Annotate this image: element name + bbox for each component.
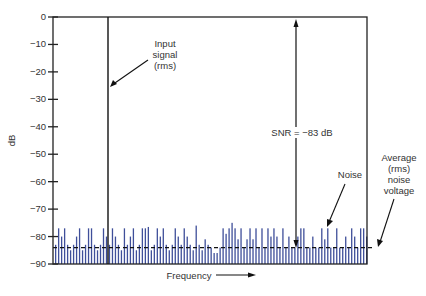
- plot-frame: [53, 17, 367, 264]
- noise-bar: [202, 250, 203, 264]
- noise-bar: [351, 228, 352, 264]
- noise-bar: [64, 228, 65, 264]
- arrowhead-icon: [377, 239, 383, 247]
- noise-bar: [121, 250, 122, 264]
- snr-chart: [0, 0, 426, 296]
- noise-label: Noise: [330, 169, 370, 180]
- noise-bar: [100, 245, 101, 264]
- noise-bar: [187, 237, 188, 264]
- noise-bar: [234, 228, 235, 264]
- noise-bars: [55, 223, 367, 264]
- noise-bar: [175, 228, 176, 264]
- noise-bar: [88, 228, 89, 264]
- noise-bar: [321, 228, 322, 264]
- noise-bar: [184, 228, 185, 264]
- noise-bar: [246, 239, 247, 264]
- noise-bar: [339, 248, 340, 264]
- average-noise-label: Average (rms) noise voltage: [372, 152, 426, 196]
- y-tick-label: −70: [14, 203, 46, 214]
- input-signal-label-line: (rms): [145, 60, 185, 71]
- noise-bar: [312, 237, 313, 264]
- noise-bar: [61, 237, 62, 264]
- arrowhead-icon: [327, 219, 333, 227]
- noise-bar: [130, 237, 131, 264]
- noise-bar: [199, 245, 200, 264]
- input-signal-label-line: signal: [145, 49, 185, 60]
- noise-bar: [97, 250, 98, 264]
- noise-bar: [279, 248, 280, 264]
- noise-bar: [243, 248, 244, 264]
- average-label-line: noise: [372, 174, 426, 185]
- noise-bar: [300, 228, 301, 264]
- noise-bar: [112, 228, 113, 264]
- y-tick-label: −80: [14, 231, 46, 242]
- noise-bar: [303, 228, 304, 264]
- noise-bar: [264, 248, 265, 264]
- noise-bar: [213, 253, 214, 264]
- noise-arrow: [329, 184, 345, 222]
- noise-bar: [160, 237, 161, 264]
- noise-bar: [178, 237, 179, 264]
- noise-bar: [85, 245, 86, 264]
- noise-bar: [333, 248, 334, 264]
- y-tick-label: −60: [14, 176, 46, 187]
- noise-bar: [225, 234, 226, 264]
- average-label-line: (rms): [372, 163, 426, 174]
- noise-bar: [205, 239, 206, 264]
- noise-bar: [261, 228, 262, 264]
- noise-bar: [151, 250, 152, 264]
- y-tick-label: −10: [14, 38, 46, 49]
- snr-label: SNR = −83 dB: [262, 127, 342, 138]
- average-label-line: Average: [372, 152, 426, 163]
- noise-bar: [106, 237, 107, 264]
- input-signal-label-line: Input: [145, 38, 185, 49]
- noise-bar: [294, 248, 295, 264]
- noise-bar: [228, 228, 229, 264]
- noise-bar: [76, 237, 77, 264]
- noise-bar: [270, 237, 271, 264]
- y-tick-label: −90: [14, 258, 46, 269]
- y-tick-label: 0: [14, 11, 46, 22]
- noise-bar: [91, 228, 92, 264]
- noise-bar: [249, 228, 250, 264]
- average-arrow: [380, 199, 394, 242]
- noise-bar: [237, 239, 238, 264]
- noise-bar: [258, 248, 259, 264]
- noise-bar: [285, 248, 286, 264]
- noise-bar: [282, 228, 283, 264]
- noise-bar: [315, 248, 316, 264]
- noise-bar: [222, 228, 223, 264]
- input-signal-label: Input signal (rms): [145, 38, 185, 71]
- noise-bar: [354, 237, 355, 264]
- noise-bar: [336, 228, 337, 264]
- noise-bar: [157, 228, 158, 264]
- noise-bar: [324, 239, 325, 264]
- noise-bar: [211, 248, 212, 264]
- noise-bar: [345, 237, 346, 264]
- noise-bar: [288, 237, 289, 264]
- y-axis-label: dB: [6, 131, 17, 151]
- y-tick-label: −50: [14, 148, 46, 159]
- noise-bar: [124, 228, 125, 264]
- average-label-line: voltage: [372, 185, 426, 196]
- noise-bar: [169, 250, 170, 264]
- noise-bar: [240, 228, 241, 264]
- noise-bar: [145, 228, 146, 264]
- noise-bar: [70, 250, 71, 264]
- noise-bar: [82, 250, 83, 264]
- noise-bar: [163, 228, 164, 264]
- noise-bar: [360, 228, 361, 264]
- noise-bar: [196, 226, 197, 264]
- noise-bar: [133, 228, 134, 264]
- noise-bar: [79, 228, 80, 264]
- noise-bar: [291, 248, 292, 264]
- y-tick-label: −40: [14, 121, 46, 132]
- noise-bar: [136, 250, 137, 264]
- x-axis-label: Frequency: [164, 270, 214, 281]
- noise-bar: [252, 239, 253, 264]
- noise-bar: [363, 228, 364, 264]
- noise-bar: [142, 228, 143, 264]
- noise-bar: [115, 237, 116, 264]
- noise-bar: [327, 228, 328, 264]
- noise-bar: [318, 248, 319, 264]
